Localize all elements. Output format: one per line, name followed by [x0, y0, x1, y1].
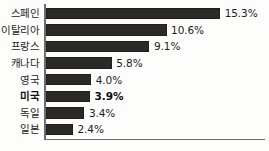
bar-row-germany: 독일 3.4% — [0, 105, 269, 122]
bar-spain — [46, 8, 221, 19]
bar-value-italy: 10.6% — [171, 24, 204, 36]
bar-italy — [46, 24, 167, 35]
bar-france — [46, 41, 150, 52]
bar-row-italy: 이탈리아 10.6% — [0, 22, 269, 39]
bar-value-france: 9.1% — [154, 40, 180, 52]
bar-value-canada: 5.8% — [116, 57, 142, 69]
bar-group-usa: 3.9% — [46, 88, 124, 105]
bar-value-japan: 2.4% — [77, 123, 103, 135]
bar-row-uk: 영국 4.0% — [0, 71, 269, 88]
bar-japan — [46, 124, 73, 135]
category-label-usa: 미국 — [0, 90, 40, 102]
category-label-uk: 영국 — [0, 74, 40, 86]
category-label-spain: 스페인 — [0, 7, 40, 19]
bar-rows: 스페인 15.3% 이탈리아 10.6% 프랑스 9.1% 캐나다 — [0, 5, 269, 138]
bar-canada — [46, 57, 112, 68]
bar-group-spain: 15.3% — [46, 5, 258, 22]
bar-row-canada: 캐나다 5.8% — [0, 55, 269, 72]
bar-group-japan: 2.4% — [46, 121, 104, 138]
category-label-italy: 이탈리아 — [0, 24, 40, 36]
bar-group-france: 9.1% — [46, 38, 181, 55]
category-label-japan: 일본 — [0, 123, 40, 135]
x-axis-line — [44, 139, 265, 141]
bar-germany — [46, 107, 85, 118]
bar-value-uk: 4.0% — [96, 74, 122, 86]
bar-value-spain: 15.3% — [225, 7, 258, 19]
category-label-canada: 캐나다 — [0, 57, 40, 69]
bar-chart: 스페인 15.3% 이탈리아 10.6% 프랑스 9.1% 캐나다 — [0, 0, 269, 151]
bar-row-spain: 스페인 15.3% — [0, 5, 269, 22]
bar-value-germany: 3.4% — [89, 107, 115, 119]
category-label-germany: 독일 — [0, 107, 40, 119]
bar-row-france: 프랑스 9.1% — [0, 38, 269, 55]
bar-group-italy: 10.6% — [46, 22, 204, 39]
bar-row-japan: 일본 2.4% — [0, 121, 269, 138]
bar-row-usa: 미국 3.9% — [0, 88, 269, 105]
bar-group-canada: 5.8% — [46, 55, 143, 72]
bar-group-uk: 4.0% — [46, 71, 122, 88]
category-label-france: 프랑스 — [0, 40, 40, 52]
bar-uk — [46, 74, 92, 85]
bar-usa — [46, 91, 91, 102]
bar-value-usa: 3.9% — [95, 90, 124, 102]
bar-group-germany: 3.4% — [46, 105, 116, 122]
